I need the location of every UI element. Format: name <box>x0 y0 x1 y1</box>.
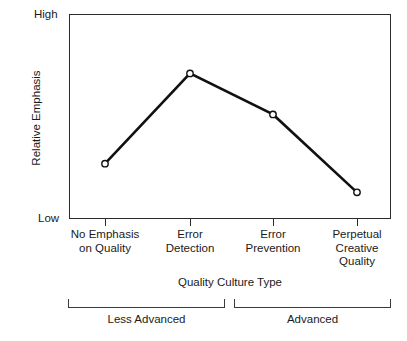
x-category-label-1-line-0: Error <box>142 228 238 242</box>
group-bracket-label-less-advanced: Less Advanced <box>68 313 225 325</box>
x-category-label-2-line-0: Error <box>225 228 321 242</box>
x-category-label-0-line-1: on Quality <box>57 242 153 256</box>
x-category-label-3-line-0: Perpetual <box>309 228 405 242</box>
y-axis-high-label: High <box>34 8 58 20</box>
x-category-label-2: Error Prevention <box>225 228 321 255</box>
group-bracket-label-advanced: Advanced <box>234 313 391 325</box>
x-tick-2 <box>273 219 274 226</box>
x-category-label-3-line-1: Creative <box>309 242 405 256</box>
x-category-label-3-line-2: Quality <box>309 255 405 269</box>
x-tick-3 <box>357 219 358 226</box>
chart-figure: High Low Relative Emphasis No Emphasis o… <box>0 0 407 341</box>
x-tick-0 <box>105 219 106 226</box>
x-category-label-1-line-1: Detection <box>142 242 238 256</box>
group-bracket-advanced <box>234 299 391 308</box>
x-category-label-0-line-0: No Emphasis <box>57 228 153 242</box>
group-bracket-less-advanced <box>68 299 225 308</box>
x-axis-title: Quality Culture Type <box>69 276 391 288</box>
x-category-label-0: No Emphasis on Quality <box>57 228 153 255</box>
x-category-label-1: Error Detection <box>142 228 238 255</box>
y-axis-title: Relative Emphasis <box>30 38 42 198</box>
y-axis-low-label: Low <box>38 212 59 224</box>
x-tick-1 <box>190 219 191 226</box>
x-category-label-2-line-1: Prevention <box>225 242 321 256</box>
x-category-label-3: Perpetual Creative Quality <box>309 228 405 269</box>
plot-area <box>69 14 391 219</box>
